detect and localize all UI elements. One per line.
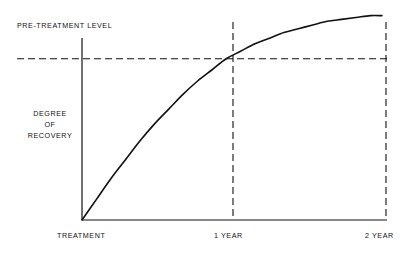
- x-tick-label-two-year: 2 YEAR: [365, 230, 394, 241]
- pre-treatment-level-label: PRE-TREATMENT LEVEL: [17, 20, 112, 31]
- recovery-chart-figure: PRE-TREATMENT LEVEL DEGREE OF RECOVERY T…: [0, 0, 419, 253]
- y-axis-title: DEGREE OF RECOVERY: [24, 108, 76, 141]
- recovery-curve-line: [82, 15, 382, 220]
- y-axis-title-line-2: OF: [24, 119, 76, 130]
- y-axis-title-line-3: RECOVERY: [24, 130, 76, 141]
- y-axis-title-line-1: DEGREE: [24, 108, 76, 119]
- x-tick-label-treatment: TREATMENT: [57, 230, 105, 241]
- x-tick-label-one-year: 1 YEAR: [214, 230, 243, 241]
